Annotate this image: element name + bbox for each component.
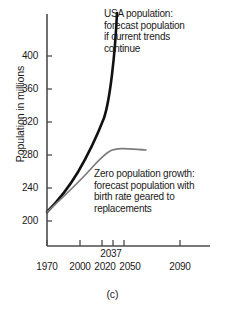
y-tick-label-320: 320 <box>8 116 38 127</box>
annotation-zpg-line-4: replacements <box>94 203 194 215</box>
y-tick-label-360: 360 <box>8 83 38 94</box>
y-tick-label-240: 240 <box>8 182 38 193</box>
y-tick-label-400: 400 <box>8 50 38 61</box>
y-tick-label-200: 200 <box>8 215 38 226</box>
annotation-usa-population: USA population: forecast population if c… <box>104 8 185 54</box>
x-tick-label-2050: 2050 <box>114 261 146 272</box>
annotation-usa-line-1: USA population: <box>104 8 185 20</box>
x-axis-ticks <box>47 240 180 246</box>
figure-caption: (c) <box>0 288 225 300</box>
annotation-usa-line-3: if current trends <box>104 31 185 43</box>
x-tick-label-1970: 1970 <box>31 261 63 272</box>
chart-figure: Population in millions 200 240 280 320 3… <box>0 0 225 314</box>
annotation-zpg-line-3: birth rate geared to <box>94 191 194 203</box>
annotation-usa-line-2: forecast population <box>104 20 185 32</box>
annotation-zero-population-growth: Zero population growth: forecast populat… <box>94 168 194 214</box>
y-tick-label-280: 280 <box>8 149 38 160</box>
annotation-zpg-line-2: forecast population with <box>94 180 194 192</box>
x-tick-label-2037: 2037 <box>94 248 128 259</box>
annotation-usa-line-4: continue <box>104 43 185 55</box>
x-tick-label-2090: 2090 <box>164 261 196 272</box>
annotation-zpg-line-1: Zero population growth: <box>94 168 194 180</box>
